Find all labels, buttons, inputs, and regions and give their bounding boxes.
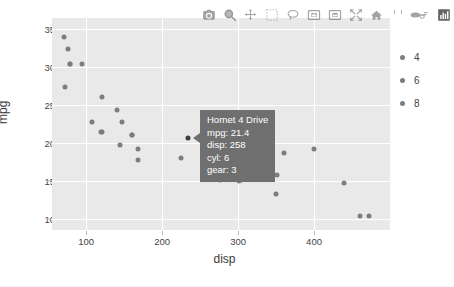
gridline-vertical (162, 18, 163, 230)
autoscale-icon[interactable] (345, 5, 366, 25)
box-select-icon[interactable] (261, 5, 282, 25)
data-point[interactable] (118, 143, 123, 148)
x-tick-label: 400 (306, 236, 322, 247)
data-point[interactable] (100, 130, 105, 135)
data-point[interactable] (366, 214, 371, 219)
data-point[interactable] (342, 181, 347, 186)
data-point[interactable] (115, 107, 120, 112)
reset-axes-icon[interactable] (366, 5, 387, 25)
gridline-horizontal (52, 29, 390, 30)
data-point[interactable] (65, 46, 70, 51)
data-point[interactable] (99, 95, 104, 100)
legend-item-6[interactable]: 6 (400, 75, 420, 86)
y-axis-title: mpg (0, 101, 10, 124)
legend-label: 6 (414, 75, 420, 86)
gridline-vertical (314, 18, 315, 230)
data-point[interactable] (135, 157, 140, 162)
data-point[interactable] (62, 85, 67, 90)
x-tick-label: 200 (154, 236, 170, 247)
gridline-horizontal (52, 219, 390, 220)
pan-icon[interactable] (240, 5, 261, 25)
data-point[interactable] (312, 147, 317, 152)
legend-item-8[interactable]: 8 (400, 98, 420, 109)
data-point[interactable] (80, 61, 85, 66)
data-point[interactable] (119, 119, 124, 124)
tooltip-arrow (193, 133, 200, 143)
x-tick-mark (86, 231, 87, 235)
zoom-out-icon[interactable] (324, 5, 345, 25)
y-tick-mark (47, 219, 51, 220)
hover-compare-icon[interactable] (408, 5, 429, 25)
x-tick-mark (238, 231, 239, 235)
zoom-icon[interactable] (219, 5, 240, 25)
x-axis-title: disp (0, 252, 449, 266)
gridline-horizontal (52, 67, 390, 68)
tooltip-row-disp: disp: 258 (207, 139, 268, 152)
data-point[interactable] (68, 61, 73, 66)
legend-label: 8 (414, 98, 420, 109)
legend-marker (400, 55, 405, 60)
hovered-point (186, 136, 191, 141)
tooltip-title: Hornet 4 Drive (207, 114, 268, 127)
download-plot-icon[interactable] (198, 5, 219, 25)
legend-item-4[interactable]: 4 (400, 52, 420, 63)
data-point[interactable] (357, 214, 362, 219)
y-tick-mark (47, 66, 51, 67)
legend-label: 4 (414, 52, 420, 63)
data-point[interactable] (281, 150, 286, 155)
tooltip-row-gear: gear: 3 (207, 164, 268, 177)
plotly-logo-icon[interactable] (433, 5, 454, 25)
x-tick-mark (162, 231, 163, 235)
gridline-vertical (86, 18, 87, 230)
y-tick-mark (47, 28, 51, 29)
data-point[interactable] (179, 155, 184, 160)
legend-marker (400, 78, 405, 83)
data-point[interactable] (129, 133, 134, 138)
y-tick-mark (47, 143, 51, 144)
y-tick-mark (47, 181, 51, 182)
x-tick-label: 100 (78, 236, 94, 247)
tooltip-row-cyl: cyl: 6 (207, 152, 268, 165)
legend[interactable]: 468 (400, 52, 420, 109)
gridline-horizontal (52, 105, 390, 106)
lasso-select-icon[interactable] (282, 5, 303, 25)
zoom-in-icon[interactable] (303, 5, 324, 25)
x-tick-label: 300 (230, 236, 246, 247)
toggle-spike-lines-icon[interactable] (387, 5, 408, 25)
x-tick-mark (314, 231, 315, 235)
y-tick-mark (47, 104, 51, 105)
plotly-modebar[interactable] (198, 4, 454, 26)
legend-marker (400, 101, 405, 106)
data-point[interactable] (90, 119, 95, 124)
data-point[interactable] (135, 147, 140, 152)
data-point[interactable] (274, 192, 279, 197)
data-point[interactable] (62, 35, 67, 40)
hover-tooltip: Hornet 4 Drive mpg: 21.4 disp: 258 cyl: … (200, 110, 275, 182)
tooltip-row-mpg: mpg: 21.4 (207, 127, 268, 140)
